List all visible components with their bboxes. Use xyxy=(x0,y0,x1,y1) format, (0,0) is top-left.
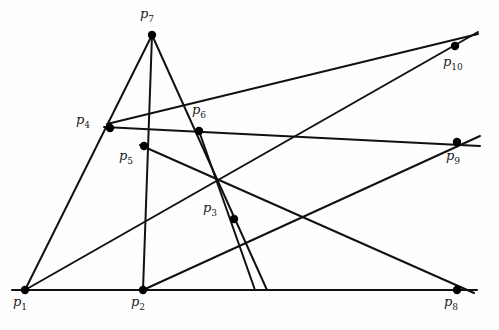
vertex-p1 xyxy=(21,286,29,294)
point-label-p5: p5 xyxy=(119,148,133,166)
line-line-p5-p6-p8 xyxy=(140,145,474,293)
label-subscript-p1: 1 xyxy=(21,302,27,312)
point-label-p4: p4 xyxy=(76,112,90,130)
vertex-p4 xyxy=(106,124,114,132)
vertex-p2 xyxy=(139,286,147,294)
line-line-p4-p5-p3-p10 xyxy=(107,34,478,124)
point-label-p1: p1 xyxy=(13,294,27,312)
point-label-p6: p6 xyxy=(192,102,206,120)
point-label-p8: p8 xyxy=(444,294,458,312)
label-subscript-p10: 10 xyxy=(451,62,462,72)
vertex-p6 xyxy=(195,127,203,135)
point-label-p3: p3 xyxy=(203,200,217,218)
vertex-p3 xyxy=(230,215,238,223)
vertex-p5 xyxy=(140,142,148,150)
line-line-p4-p6-p9 xyxy=(104,127,480,146)
vertex-p10 xyxy=(451,42,459,50)
label-subscript-p5: 5 xyxy=(127,156,133,166)
label-subscript-p2: 2 xyxy=(139,302,145,312)
line-line-p2-p3-p9 xyxy=(143,136,480,290)
label-subscript-p6: 6 xyxy=(200,110,206,120)
label-subscript-p7: 7 xyxy=(148,14,154,24)
point-label-p10: p10 xyxy=(443,54,463,72)
vertex-p8 xyxy=(453,286,461,294)
label-subscript-p3: 3 xyxy=(211,208,217,218)
figure-canvas: p1p2p3p4p5p6p7p8p9p10 xyxy=(0,0,499,330)
line-line-p7-p2 xyxy=(143,35,152,290)
point-label-p2: p2 xyxy=(131,294,145,312)
label-subscript-p9: 9 xyxy=(454,156,460,166)
label-subscript-p4: 4 xyxy=(84,120,90,130)
point-label-p9: p9 xyxy=(446,148,460,166)
geometry-diagram xyxy=(0,0,499,330)
line-line-p1-p3-p10 xyxy=(25,32,478,290)
vertex-p9 xyxy=(453,138,461,146)
lines-layer xyxy=(12,32,480,293)
vertex-p7 xyxy=(148,31,156,39)
label-subscript-p8: 8 xyxy=(452,302,458,312)
point-label-p7: p7 xyxy=(140,6,154,24)
